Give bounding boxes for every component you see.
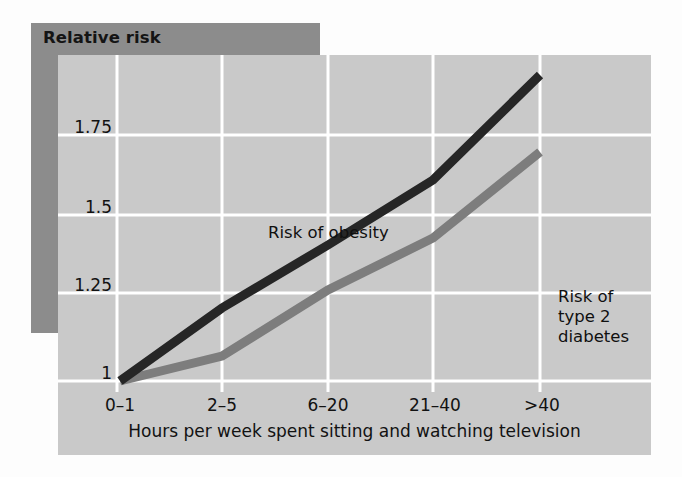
ytick-label-1.75: 1.75 [66,117,112,137]
xtick-label-21-40: 21–40 [392,395,478,415]
figure-chart-relative-risk: Relative risk Ris [0,0,682,477]
series-label-risk-of-obesity: Risk of obesity [268,223,389,243]
series-label-risk-of-type-2-diabetes: Risk of type 2 diabetes [558,287,651,346]
ytick-label-1: 1 [66,363,112,383]
series-line-risk-of-type-2-diabetes [120,152,540,381]
xtick-label-2-5: 2–5 [182,395,262,415]
chart-plot-panel: Risk of obesity Risk of type 2 diabetes … [58,55,651,455]
ytick-label-1.5: 1.5 [66,197,112,217]
ytick-label-1.25: 1.25 [66,275,112,295]
xtick-label-0-1: 0–1 [80,395,160,415]
chart-title: Relative risk [43,28,161,47]
xtick-label-over-40: >40 [502,395,582,415]
x-axis-title: Hours per week spent sitting and watchin… [58,421,651,441]
xtick-label-6-20: 6–20 [288,395,368,415]
